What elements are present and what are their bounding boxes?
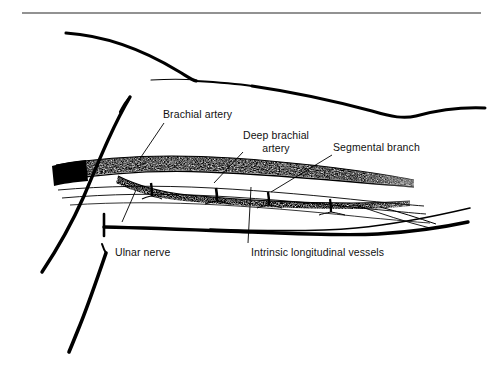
anatomical-figure: Brachial artery Deep brachial artery Seg… <box>0 0 496 372</box>
label-deep-brachial-artery: Deep brachial artery <box>228 129 324 155</box>
label-segmental-branch: Segmental branch <box>333 141 420 154</box>
leader-brachial-artery <box>139 123 164 160</box>
brachial-artery-band <box>56 156 414 209</box>
label-intrinsic-longitudinal-vessels: Intrinsic longitudinal vessels <box>251 246 384 259</box>
distal-descending-branch <box>69 253 106 352</box>
label-ulnar-nerve: Ulnar nerve <box>115 246 170 259</box>
leader-intrinsic-vessels <box>248 187 251 243</box>
figure-canvas <box>0 0 496 372</box>
upper-contour <box>66 33 485 117</box>
distal-branch-origin <box>102 244 106 253</box>
label-brachial-artery: Brachial artery <box>163 108 232 121</box>
artery-root <box>52 160 88 186</box>
